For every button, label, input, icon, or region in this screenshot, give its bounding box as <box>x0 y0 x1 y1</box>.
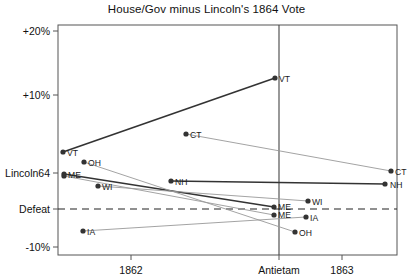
point-label-wi-right: WI <box>312 197 323 207</box>
data-point <box>271 212 276 217</box>
data-point <box>303 214 308 219</box>
plot-frame <box>58 25 397 255</box>
chart-container: House/Gov minus Lincoln's 1864 Vote <box>0 0 413 278</box>
y-axis-label-10: +10% <box>0 89 50 101</box>
data-point <box>183 131 188 136</box>
point-label-me-upper-left: ME <box>68 170 81 180</box>
data-point <box>60 149 65 154</box>
series-line-ct <box>186 134 391 171</box>
point-label-nh-right: NH <box>390 180 402 190</box>
data-point <box>292 229 297 234</box>
point-label-ia-left: IA <box>87 227 95 237</box>
y-axis-label-defeat: Defeat <box>0 203 50 215</box>
y-axis-label-neg10: -10% <box>0 241 50 253</box>
data-point <box>305 198 310 203</box>
point-label-me-lower-right: ME <box>278 210 291 220</box>
x-axis-label-1862: 1862 <box>119 264 142 276</box>
point-label-ia-right: IA <box>310 213 318 223</box>
data-point <box>382 181 387 186</box>
data-point <box>168 178 173 183</box>
data-point <box>272 75 277 80</box>
data-point-markers <box>60 75 393 234</box>
series-line-nh <box>171 181 385 184</box>
point-label-ct-right: CT <box>395 167 406 177</box>
chart-plot <box>0 0 413 278</box>
data-point <box>61 173 66 178</box>
point-label-oh-right: OH <box>299 228 312 238</box>
series-line-ia <box>83 217 306 231</box>
data-point <box>388 168 393 173</box>
series-line-oh <box>84 162 295 232</box>
x-axis-label-1863: 1863 <box>330 264 353 276</box>
x-tick-marks <box>131 255 342 260</box>
point-label-wi-left: WI <box>102 182 113 192</box>
data-point <box>81 159 86 164</box>
data-point <box>95 183 100 188</box>
x-axis-label-antietam: Antietam <box>258 264 299 276</box>
point-label-oh-left: OH <box>88 158 101 168</box>
point-label-vt-right: VT <box>279 74 290 84</box>
data-point <box>271 204 276 209</box>
point-label-ct-left: CT <box>190 130 201 140</box>
data-point <box>80 228 85 233</box>
y-axis-label-lincoln64: Lincoln64 <box>0 167 50 179</box>
y-tick-marks <box>53 31 58 247</box>
y-axis-label-20: +20% <box>0 25 50 37</box>
point-label-vt-left: VT <box>67 148 78 158</box>
point-label-nh-left: NH <box>175 177 187 187</box>
series-line-vt <box>63 78 275 152</box>
